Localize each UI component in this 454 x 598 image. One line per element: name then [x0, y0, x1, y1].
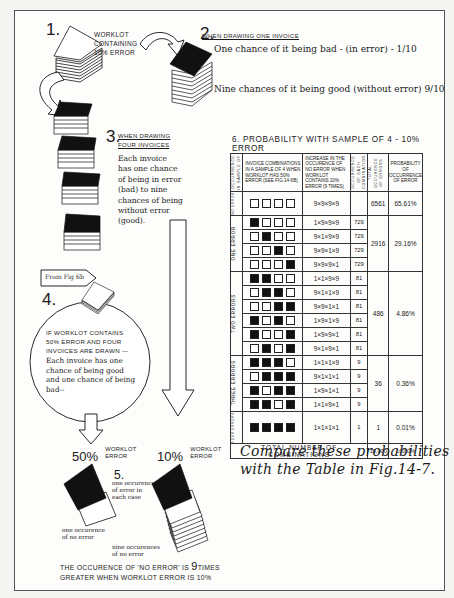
step4-body: Each invoice has one chance of being goo… [46, 356, 135, 394]
invoice-good-box [274, 400, 283, 409]
invoice-good-box [262, 386, 271, 395]
invoice-error-box [262, 423, 271, 432]
invoice-good-box [262, 218, 271, 227]
table-row: Four errors1×1×1×1110.01% [231, 411, 423, 443]
each-cell: 729 [350, 229, 368, 243]
invoice-error-box [274, 316, 283, 325]
table-title: 6. PROBABILITY WITH SAMPLE OF 4 - 10% ER… [232, 135, 454, 153]
invoice-error-box [286, 372, 295, 381]
invoice-error-box [250, 218, 259, 227]
invoice-error-box [262, 372, 271, 381]
ten-percent-stack-icon [150, 462, 210, 552]
step4-condition: IF WORKLOT CONTAINS 50% ERROR AND FOUR I… [46, 328, 128, 355]
table-header-row: Occurrence in sample of Invoice combinat… [231, 154, 423, 192]
each-cell: 729 [350, 243, 368, 257]
invoice-good-box [286, 288, 295, 297]
probability-cell: 0.36% [389, 355, 423, 411]
combination-boxes [243, 341, 303, 355]
header-probability: Probability of occurrence of error [389, 154, 423, 192]
invoice-good-box [286, 274, 295, 283]
invoice-good-box [286, 199, 295, 208]
step2-bad-chance: One chance of it being bad - (in error) … [214, 44, 417, 54]
invoice-error-box [274, 288, 283, 297]
header-combinations: Invoice combinations in a sample of 4 wh… [243, 154, 303, 192]
each-cell: 81 [350, 327, 368, 341]
invoice-good-box [274, 260, 283, 269]
invoice-good-box [274, 218, 283, 227]
each-cell: 729 [350, 215, 368, 229]
invoice-good-box [286, 232, 295, 241]
invoice-error-box [262, 400, 271, 409]
formula-cell: 9×1×9×1 [303, 341, 350, 355]
invoice-error-box [274, 386, 283, 395]
from-fig-label: From Fig 6b [45, 273, 84, 280]
header-total: Total occurence of errors [368, 154, 389, 192]
total-cell: 6561 [368, 192, 389, 216]
total-cell: 1 [368, 411, 389, 443]
probability-cell: 65.61% [389, 192, 423, 216]
formula-cell: 1×9×9×9 [303, 215, 350, 229]
invoice-error-box [250, 330, 259, 339]
combination-boxes [243, 299, 303, 313]
group-label: One error [231, 215, 243, 271]
each-cell [350, 192, 368, 216]
group-label: No error [231, 192, 243, 216]
group-label: Four errors [231, 411, 243, 443]
formula-cell: 9×1×1×1 [303, 369, 350, 383]
header-increase: Increase in the occurence of no error wh… [303, 154, 350, 192]
invoice-error-box [262, 288, 271, 297]
step3-body: Each invoice has one chance of being in … [118, 154, 183, 227]
invoice-error-box [262, 358, 271, 367]
each-cell: 81 [350, 313, 368, 327]
invoice-good-box [286, 358, 295, 367]
combination-boxes [243, 229, 303, 243]
step3-heading: WHEN DRAWING FOUR INVOICES [118, 132, 170, 150]
fifty-percent-caption: one occurence of no error [62, 527, 105, 541]
each-cell: 9 [350, 369, 368, 383]
combination-boxes [243, 192, 303, 216]
invoice-good-box [250, 246, 259, 255]
invoice-good-box [262, 260, 271, 269]
invoice-error-box [286, 260, 295, 269]
each-cell: 81 [350, 341, 368, 355]
conclusion-text: THE OCCURENCE OF 'NO ERROR' IS 9TIMES GR… [60, 561, 220, 583]
total-cell: 36 [368, 355, 389, 411]
invoice-error-box [274, 302, 283, 311]
fifty-percent-pair-icon [62, 462, 118, 528]
invoice-error-box [250, 400, 259, 409]
each-cell: 81 [350, 299, 368, 313]
group-label: Three errors [231, 355, 243, 411]
invoice-good-box [262, 330, 271, 339]
invoice-error-box [286, 386, 295, 395]
invoice-good-box [274, 232, 283, 241]
formula-cell: 9×9×9×1 [303, 257, 350, 271]
invoice-good-box [250, 288, 259, 297]
invoice-good-box [274, 344, 283, 353]
step2-good-chance: Nine chances of it being good (without e… [214, 84, 445, 94]
each-cell: 9 [350, 355, 368, 369]
formula-cell: 9×9×1×1 [303, 299, 350, 313]
invoice-good-box [274, 330, 283, 339]
formula-cell: 1×9×9×1 [303, 327, 350, 341]
total-cell: 2916 [368, 215, 389, 271]
formula-cell: 1×1×9×1 [303, 397, 350, 411]
invoice-error-box [286, 302, 295, 311]
formula-cell: 1×1×1×9 [303, 355, 350, 369]
combination-boxes [243, 369, 303, 383]
invoice-good-box [250, 199, 259, 208]
header-each: Occurrence of each combination [350, 154, 368, 192]
each-cell: 81 [350, 271, 368, 285]
invoice-error-box [250, 316, 259, 325]
formula-cell: 9×9×9×9 [303, 192, 350, 216]
step5-note: one occurence of error in each case [112, 480, 155, 502]
invoice-good-box [250, 344, 259, 353]
each-cell: 729 [350, 257, 368, 271]
invoice-good-box [250, 260, 259, 269]
invoice-error-box [250, 386, 259, 395]
long-down-arrow-icon [162, 220, 196, 420]
formula-cell: 1×1×1×1 [303, 411, 350, 443]
table-row: Three errors1×1×1×99360.36% [231, 355, 423, 369]
combination-boxes [243, 355, 303, 369]
formula-cell: 1×9×1×9 [303, 313, 350, 327]
formula-cell: 9×1×1×9 [303, 285, 350, 299]
